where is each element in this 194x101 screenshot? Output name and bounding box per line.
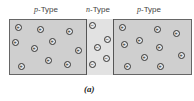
hole-plus-icon: + — [64, 61, 71, 68]
hole-plus-icon: + — [37, 26, 44, 33]
hole-plus-icon: + — [12, 39, 19, 46]
electron-minus-icon: − — [94, 44, 101, 51]
hole-plus-icon: + — [49, 38, 56, 45]
hole-plus-icon: + — [119, 24, 126, 31]
hole-plus-icon: + — [141, 54, 148, 61]
hole-plus-icon: + — [178, 52, 185, 59]
label-suffix: -Type — [38, 5, 58, 14]
hole-plus-icon: + — [124, 63, 131, 70]
hole-plus-icon: + — [136, 37, 143, 44]
hole-plus-icon: + — [173, 30, 180, 37]
figure-caption: (a) — [84, 84, 95, 94]
hole-plus-icon: + — [45, 57, 52, 64]
n-type-label: n-Type — [86, 5, 110, 14]
hole-plus-icon: + — [156, 44, 163, 51]
electron-minus-icon: − — [103, 55, 110, 62]
label-suffix: -Type — [141, 5, 161, 14]
electron-minus-icon: − — [89, 22, 96, 29]
right-p-type-label: p-Type — [137, 5, 161, 14]
hole-plus-icon: + — [66, 28, 73, 35]
left-p-type-label: p-Type — [34, 5, 58, 14]
hole-plus-icon: + — [75, 47, 82, 54]
hole-plus-icon: + — [121, 41, 128, 48]
hole-plus-icon: + — [31, 45, 38, 52]
hole-plus-icon: + — [18, 63, 25, 70]
electron-minus-icon: − — [104, 36, 111, 43]
hole-plus-icon: + — [157, 63, 164, 70]
hole-plus-icon: + — [154, 26, 161, 33]
electron-minus-icon: − — [89, 61, 96, 68]
label-suffix: -Type — [90, 5, 110, 14]
hole-plus-icon: + — [15, 24, 22, 31]
